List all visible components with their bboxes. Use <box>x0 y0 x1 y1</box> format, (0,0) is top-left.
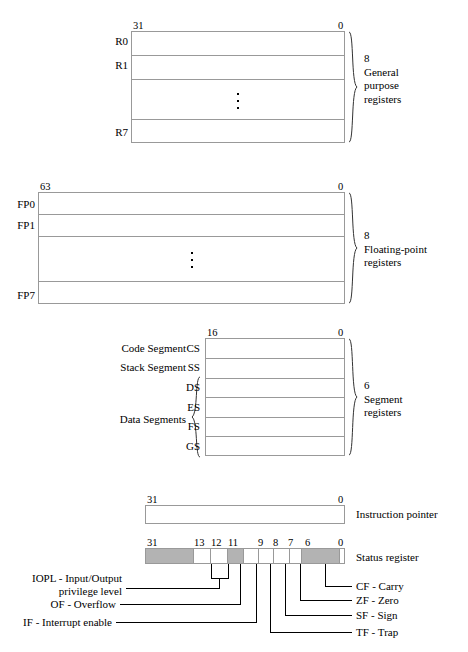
fpr-group-brace-icon <box>347 192 359 304</box>
fpr-bit-high-label: 63 <box>40 181 51 192</box>
status-cell-bit-10[interactable] <box>244 549 259 563</box>
segment-group-note: 6 Segment registers <box>364 379 403 420</box>
segment-note-line-1: 6 <box>364 379 403 393</box>
tf-flag-label: TF - Trap <box>356 626 398 639</box>
status-bit-label-0: 0 <box>338 537 343 548</box>
fpr-row-fp7[interactable] <box>39 282 344 303</box>
segment-row-fs[interactable] <box>206 418 344 437</box>
gpr-note-line-1: 8 <box>364 52 401 66</box>
instruction-pointer-box[interactable] <box>145 505 345 524</box>
fpr-bit-low-label: 0 <box>338 181 343 192</box>
status-cell-bit-8[interactable] <box>274 549 290 563</box>
cf-leader-h <box>325 586 352 587</box>
of-flag-label: OF - Overflow <box>0 598 116 611</box>
if-leader-v <box>256 564 257 622</box>
sf-flag-label: SF - Sign <box>356 609 398 622</box>
segment-note-line-2: Segment <box>364 393 403 407</box>
status-bit-label-11: 11 <box>228 537 238 548</box>
gpr-group-note: 8 General purpose registers <box>364 52 401 106</box>
status-bit-label-6: 6 <box>305 537 310 548</box>
segment-row-label-es: ES <box>172 402 200 413</box>
fpr-vertical-ellipsis-icon <box>187 247 197 273</box>
iopl-flag-label-line1: IOPL - Input/Output <box>0 572 122 585</box>
segment-row-gs[interactable] <box>206 437 344 455</box>
status-bit-label-7: 7 <box>288 537 293 548</box>
fpr-row-label-fp1: FP1 <box>5 220 35 231</box>
status-bit-label-12: 12 <box>211 537 222 548</box>
gpr-note-line-2: General <box>364 66 401 80</box>
segment-group-brace-icon <box>347 338 359 456</box>
status-bit-label-8: 8 <box>273 537 278 548</box>
status-cell-bit-6[interactable] <box>302 549 340 563</box>
status-cell-bit-13[interactable] <box>194 549 211 563</box>
segment-group-label-data-segments: Data Segments <box>86 414 186 425</box>
status-cell-reserved-low[interactable] <box>340 549 344 563</box>
segment-row-label-cs: CS <box>172 343 200 354</box>
fpr-note-line-2: Floating-point <box>364 243 427 257</box>
fpr-row-fp1[interactable] <box>39 215 344 237</box>
gpr-row-r7[interactable] <box>132 120 344 142</box>
status-register-box <box>145 548 345 564</box>
if-flag-label: IF - Interrupt enable <box>0 616 112 629</box>
fpr-note-line-3: registers <box>364 256 427 270</box>
status-bit-label-9: 9 <box>258 537 263 548</box>
zf-flag-label: ZF - Zero <box>356 594 399 607</box>
status-cell-bit-7[interactable] <box>290 549 302 563</box>
gpr-row-label-r7: R7 <box>100 127 128 138</box>
segment-bit-high-label: 16 <box>207 327 218 338</box>
tf-leader-v <box>270 564 271 632</box>
sf-leader-h <box>285 615 352 616</box>
status-register-label: Status register <box>356 551 419 564</box>
segment-row-label-ds: DS <box>172 382 200 393</box>
segment-row-label-ss: SS <box>172 362 200 373</box>
iopl-flag-label-line2: privilege level <box>0 585 122 598</box>
iopl-leader-v3 <box>219 578 220 588</box>
gpr-row-r1[interactable] <box>132 56 344 80</box>
segment-row-label-fs: FS <box>172 421 200 432</box>
gpr-vertical-ellipsis-icon <box>233 88 243 114</box>
fpr-row-ellipsis <box>39 237 344 282</box>
gpr-row-ellipsis <box>132 80 344 120</box>
gpr-note-line-3: purpose <box>364 79 401 93</box>
segment-row-es[interactable] <box>206 398 344 418</box>
zf-leader-v <box>300 564 301 600</box>
segment-bit-low-label: 0 <box>338 327 343 338</box>
iopl-leader-join <box>211 578 229 579</box>
iopl-leader-v1 <box>211 564 212 578</box>
status-cell-bit-9[interactable] <box>259 549 274 563</box>
iopl-leader-h <box>126 588 220 589</box>
gpr-bit-low-label: 0 <box>338 20 343 31</box>
status-bit-label-13: 13 <box>194 537 205 548</box>
iopl-leader-v2 <box>228 564 229 578</box>
cf-leader-v <box>325 564 326 586</box>
gpr-box <box>131 31 345 143</box>
segment-row-cs[interactable] <box>206 339 344 359</box>
status-cell-reserved-high[interactable] <box>146 549 194 563</box>
status-cell-bit-12[interactable] <box>211 549 228 563</box>
segment-box <box>205 338 345 456</box>
fpr-row-fp0[interactable] <box>39 193 344 215</box>
gpr-group-brace-icon <box>347 31 359 143</box>
gpr-bit-high-label: 31 <box>133 20 144 31</box>
tf-leader-h <box>270 632 352 633</box>
segment-note-line-3: registers <box>364 406 403 420</box>
status-bit-label-31: 31 <box>147 537 158 548</box>
ip-bit-low-label: 0 <box>338 494 343 505</box>
fpr-group-note: 8 Floating-point registers <box>364 229 427 270</box>
fpr-box <box>38 192 345 304</box>
segment-row-label-gs: GS <box>172 441 200 452</box>
fpr-note-line-1: 8 <box>364 229 427 243</box>
cf-flag-label: CF - Carry <box>356 580 404 593</box>
if-leader-h <box>116 622 257 623</box>
segment-row-ds[interactable] <box>206 379 344 398</box>
gpr-row-label-r1: R1 <box>100 60 128 71</box>
of-leader-v <box>240 564 241 604</box>
ip-bit-high-label: 31 <box>147 494 158 505</box>
instruction-pointer-label: Instruction pointer <box>356 508 438 521</box>
iopl-flag-label: IOPL - Input/Output privilege level <box>0 572 122 598</box>
fpr-row-label-fp0: FP0 <box>5 199 35 210</box>
gpr-row-r0[interactable] <box>132 32 344 56</box>
sf-leader-v <box>285 564 286 615</box>
status-cell-bit-11[interactable] <box>228 549 244 563</box>
segment-row-ss[interactable] <box>206 359 344 379</box>
